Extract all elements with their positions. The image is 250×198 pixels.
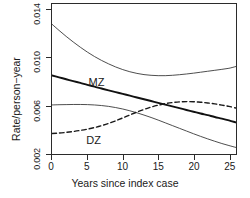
- x-tick-label: 0: [36, 161, 66, 172]
- x-tick: [230, 155, 231, 160]
- x-tick: [87, 155, 88, 160]
- x-tick: [123, 155, 124, 160]
- x-tick-label: 20: [179, 161, 209, 172]
- y-axis-title: Rate/person−year: [10, 39, 22, 159]
- x-tick: [194, 155, 195, 160]
- curve-dz: [52, 102, 236, 134]
- series-label-dz: DZ: [86, 134, 101, 146]
- plot-area: [51, 3, 237, 155]
- x-tick: [51, 155, 52, 160]
- x-tick-label: 5: [72, 161, 102, 172]
- x-tick: [158, 155, 159, 160]
- x-tick-label: 10: [108, 161, 138, 172]
- curve-mz-upper-confidence-limit: [52, 24, 236, 75]
- y-tick-label: 0.010: [32, 52, 42, 74]
- curve-mz-lower-confidence-limit: [52, 104, 236, 147]
- series-curves: [52, 4, 236, 154]
- x-axis: Years since index case 0510152025: [0, 155, 250, 198]
- y-tick-label: 0.006: [32, 100, 42, 122]
- x-tick-label: 25: [215, 161, 245, 172]
- series-label-mz: MZ: [89, 76, 105, 88]
- x-axis-title: Years since index case: [0, 177, 250, 189]
- y-tick-label: 0.014: [32, 3, 42, 25]
- chart-figure: 0.0020.0060.0100.014 MZ DZ Years since i…: [0, 0, 250, 198]
- x-tick-label: 15: [143, 161, 173, 172]
